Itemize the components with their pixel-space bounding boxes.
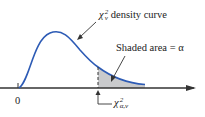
chi-symbol: χ (99, 9, 104, 20)
x-axis-arrowhead (186, 85, 196, 91)
density-curve (19, 32, 145, 88)
curve-label: χ2ν density curve (99, 9, 167, 22)
shade-pointer-arrow (113, 56, 125, 78)
chi-symbol: χ (114, 97, 119, 108)
shaded-tail-area (98, 67, 145, 88)
curve-pointer-arrow (80, 22, 96, 37)
curve-label-text: density curve (111, 9, 167, 20)
origin-label: 0 (15, 96, 20, 107)
critical-value-label: χ2α,ν (114, 97, 128, 110)
critical-label-sub: α,ν (120, 103, 129, 109)
curve-label-sub: ν (105, 15, 109, 21)
critical-pointer-arrowhead (96, 90, 101, 95)
critical-pointer-leader (98, 101, 112, 104)
shaded-area-label: Shaded area = α (116, 43, 184, 54)
